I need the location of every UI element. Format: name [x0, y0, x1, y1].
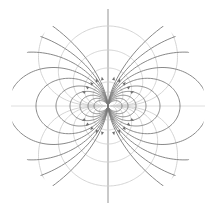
arrow-icon: [101, 77, 104, 81]
arrow-icon: [86, 86, 90, 89]
arrow-icon: [127, 123, 131, 126]
dipole-field-diagram: [0, 0, 216, 211]
arrow-icon: [127, 86, 131, 89]
arrow-icon: [86, 123, 90, 126]
arrow-icon: [112, 132, 115, 136]
arrow-icon: [101, 132, 104, 136]
field-svg: [0, 0, 216, 211]
arrow-icon: [112, 77, 115, 81]
